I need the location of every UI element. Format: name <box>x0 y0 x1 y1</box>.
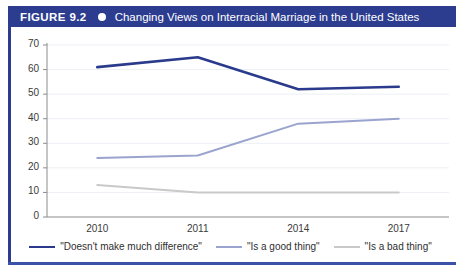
legend-swatch-is-a-good-thing <box>216 246 242 248</box>
line-chart <box>0 27 461 237</box>
y-axis-tick-label: 60 <box>13 63 39 74</box>
figure-title: Changing Views on Interracial Marriage i… <box>115 11 420 23</box>
x-axis-tick-label: 2010 <box>74 223 120 234</box>
chart-legend: "Doesn't make much difference" "Is a goo… <box>0 241 461 252</box>
legend-item-is-a-bad-thing: "Is a bad thing" <box>334 241 432 252</box>
legend-item-is-a-good-thing: "Is a good thing" <box>216 241 320 252</box>
legend-label-doesnt-make-much-difference: "Doesn't make much difference" <box>60 241 202 252</box>
figure-header: FIGURE 9.2 Changing Views on Interracial… <box>8 6 456 27</box>
y-axis-tick-label: 70 <box>13 38 39 49</box>
x-axis-tick-label: 2011 <box>175 223 221 234</box>
plot-area <box>0 27 461 237</box>
x-axis-tick-label: 2017 <box>376 223 422 234</box>
y-axis-tick-label: 40 <box>13 112 39 123</box>
legend-swatch-doesnt-make-much-difference <box>29 246 55 248</box>
circle-bullet-icon <box>98 13 106 21</box>
figure-number: FIGURE 9.2 <box>20 11 87 23</box>
y-axis-tick-label: 30 <box>13 136 39 147</box>
legend-swatch-is-a-bad-thing <box>334 246 360 248</box>
legend-item-doesnt-make-much-difference: "Doesn't make much difference" <box>29 241 202 252</box>
y-axis-tick-label: 50 <box>13 87 39 98</box>
legend-label-is-a-good-thing: "Is a good thing" <box>247 241 320 252</box>
figure-container: FIGURE 9.2 Changing Views on Interracial… <box>0 0 461 272</box>
x-axis-tick-label: 2014 <box>275 223 321 234</box>
y-axis-tick-label: 0 <box>13 210 39 221</box>
legend-label-is-a-bad-thing: "Is a bad thing" <box>365 241 432 252</box>
frame-bottom-rail <box>8 262 456 265</box>
y-axis-tick-label: 20 <box>13 161 39 172</box>
y-axis-tick-label: 10 <box>13 185 39 196</box>
